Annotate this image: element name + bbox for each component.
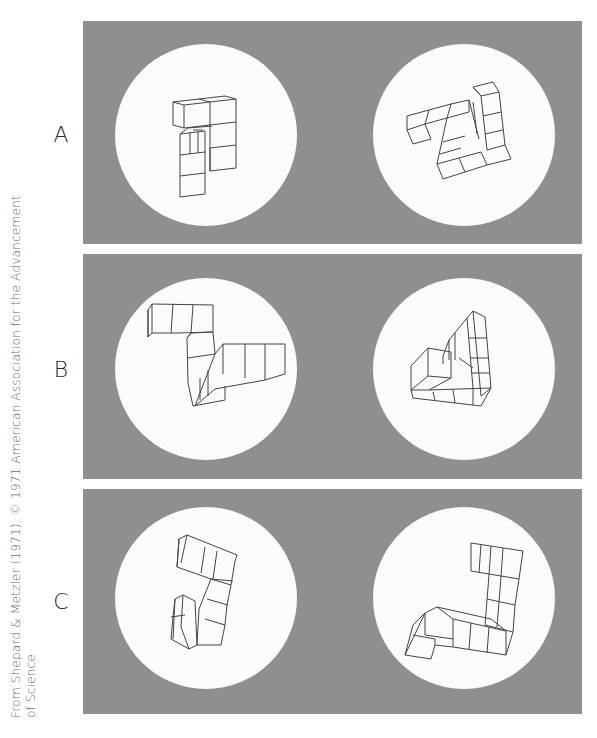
cube-object-b-right-icon (373, 278, 555, 460)
cube-object-b-left-icon (115, 278, 297, 460)
row-label-b: B (46, 358, 76, 382)
caption-line-2: of Science (23, 75, 38, 718)
circle-b-right (373, 278, 555, 460)
cube-object-c-right-icon (373, 507, 555, 689)
cube-object-a-left-icon (115, 44, 297, 226)
row-label-a: A (46, 123, 76, 147)
circle-c-right (373, 507, 555, 689)
circle-c-left (115, 507, 297, 689)
cube-object-c-left-icon (115, 507, 297, 689)
panel-c (83, 489, 582, 714)
circle-b-left (115, 278, 297, 460)
circle-a-left (115, 44, 297, 226)
panel-b (83, 254, 582, 479)
figure-caption: From Shepard & Metzler (1971). © 1971 Am… (8, 75, 38, 718)
row-label-c: C (46, 590, 76, 614)
panel-a (83, 21, 582, 244)
cube-object-a-right-icon (373, 44, 555, 226)
caption-line-1: From Shepard & Metzler (1971). © 1971 Am… (8, 75, 23, 718)
circle-a-right (373, 44, 555, 226)
